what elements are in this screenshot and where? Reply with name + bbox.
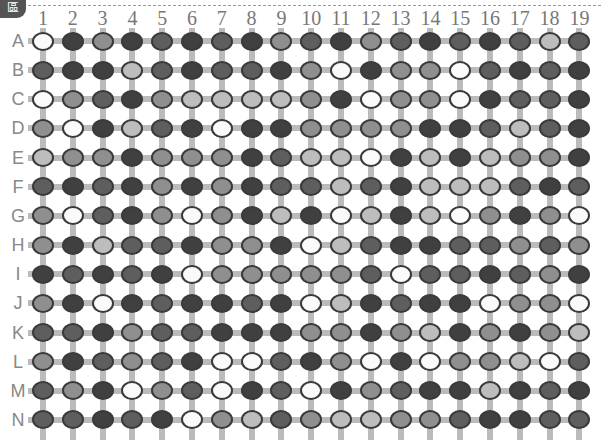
board-cell-G13[interactable]: [390, 206, 412, 225]
board-cell-A17[interactable]: [509, 32, 531, 51]
board-cell-F9[interactable]: [270, 177, 292, 196]
board-cell-G6[interactable]: [181, 206, 203, 225]
board-cell-B2[interactable]: [62, 61, 84, 80]
board-cell-F10[interactable]: [300, 177, 322, 196]
board-cell-G8[interactable]: [241, 206, 263, 225]
board-cell-D19[interactable]: [568, 119, 590, 138]
board-cell-J15[interactable]: [449, 294, 471, 313]
board-cell-H16[interactable]: [479, 236, 501, 255]
board-cell-K16[interactable]: [479, 323, 501, 342]
board-cell-D18[interactable]: [539, 119, 561, 138]
board-cell-D13[interactable]: [390, 119, 412, 138]
board-cell-H17[interactable]: [509, 236, 531, 255]
board-cell-M13[interactable]: [390, 381, 412, 400]
board-cell-A18[interactable]: [539, 32, 561, 51]
board-cell-F7[interactable]: [211, 177, 233, 196]
board-cell-F6[interactable]: [181, 177, 203, 196]
board-cell-A4[interactable]: [121, 32, 143, 51]
board-cell-B11[interactable]: [330, 61, 352, 80]
board-cell-A3[interactable]: [92, 32, 114, 51]
board-cell-I6[interactable]: [181, 265, 203, 284]
board-cell-M3[interactable]: [92, 381, 114, 400]
board-cell-L2[interactable]: [62, 352, 84, 371]
board-cell-F13[interactable]: [390, 177, 412, 196]
board-cell-H12[interactable]: [360, 236, 382, 255]
board-cell-L4[interactable]: [121, 352, 143, 371]
board-cell-K3[interactable]: [92, 323, 114, 342]
board-cell-G14[interactable]: [419, 206, 441, 225]
board-cell-E12[interactable]: [360, 148, 382, 167]
board-cell-H7[interactable]: [211, 236, 233, 255]
board-cell-H13[interactable]: [390, 236, 412, 255]
board-cell-F1[interactable]: [32, 177, 54, 196]
board-cell-E11[interactable]: [330, 148, 352, 167]
board-cell-L6[interactable]: [181, 352, 203, 371]
board-cell-N7[interactable]: [211, 410, 233, 429]
board-cell-B12[interactable]: [360, 61, 382, 80]
board-cell-G15[interactable]: [449, 206, 471, 225]
board-cell-K13[interactable]: [390, 323, 412, 342]
board-cell-N10[interactable]: [300, 410, 322, 429]
board-cell-B5[interactable]: [151, 61, 173, 80]
board-cell-D15[interactable]: [449, 119, 471, 138]
board-cell-I3[interactable]: [92, 265, 114, 284]
board-cell-G17[interactable]: [509, 206, 531, 225]
board-cell-J6[interactable]: [181, 294, 203, 313]
board-cell-D14[interactable]: [419, 119, 441, 138]
board-cell-M6[interactable]: [181, 381, 203, 400]
board-cell-A13[interactable]: [390, 32, 412, 51]
board-cell-E3[interactable]: [92, 148, 114, 167]
board-cell-L7[interactable]: [211, 352, 233, 371]
board-cell-L8[interactable]: [241, 352, 263, 371]
board-cell-C1[interactable]: [32, 90, 54, 109]
board-cell-I8[interactable]: [241, 265, 263, 284]
board-cell-D9[interactable]: [270, 119, 292, 138]
board-cell-L10[interactable]: [300, 352, 322, 371]
board-cell-I13[interactable]: [390, 265, 412, 284]
board-cell-H3[interactable]: [92, 236, 114, 255]
board-cell-E13[interactable]: [390, 148, 412, 167]
board-cell-H8[interactable]: [241, 236, 263, 255]
board-cell-E18[interactable]: [539, 148, 561, 167]
board-cell-A12[interactable]: [360, 32, 382, 51]
board-cell-L14[interactable]: [419, 352, 441, 371]
board-cell-A1[interactable]: [32, 32, 54, 51]
board-cell-F17[interactable]: [509, 177, 531, 196]
board-cell-N16[interactable]: [479, 410, 501, 429]
board-cell-E7[interactable]: [211, 148, 233, 167]
board-cell-M19[interactable]: [568, 381, 590, 400]
board-cell-I5[interactable]: [151, 265, 173, 284]
board-cell-K7[interactable]: [211, 323, 233, 342]
board-cell-M17[interactable]: [509, 381, 531, 400]
board-cell-K2[interactable]: [62, 323, 84, 342]
board-cell-J17[interactable]: [509, 294, 531, 313]
board-cell-M16[interactable]: [479, 381, 501, 400]
board-cell-N2[interactable]: [62, 410, 84, 429]
board-cell-J18[interactable]: [539, 294, 561, 313]
board-cell-E2[interactable]: [62, 148, 84, 167]
board-cell-D2[interactable]: [62, 119, 84, 138]
board-cell-F8[interactable]: [241, 177, 263, 196]
board-cell-F4[interactable]: [121, 177, 143, 196]
board-cell-K15[interactable]: [449, 323, 471, 342]
board-cell-F2[interactable]: [62, 177, 84, 196]
board-cell-N5[interactable]: [151, 410, 173, 429]
board-cell-B13[interactable]: [390, 61, 412, 80]
board-cell-N3[interactable]: [92, 410, 114, 429]
board-cell-H14[interactable]: [419, 236, 441, 255]
board-cell-K6[interactable]: [181, 323, 203, 342]
board-cell-K8[interactable]: [241, 323, 263, 342]
board-cell-M5[interactable]: [151, 381, 173, 400]
board-cell-A19[interactable]: [568, 32, 590, 51]
board-cell-C5[interactable]: [151, 90, 173, 109]
board-cell-C14[interactable]: [419, 90, 441, 109]
board-cell-C4[interactable]: [121, 90, 143, 109]
board-cell-H10[interactable]: [300, 236, 322, 255]
board-cell-H9[interactable]: [270, 236, 292, 255]
board-cell-M7[interactable]: [211, 381, 233, 400]
board-cell-G19[interactable]: [568, 206, 590, 225]
board-cell-J8[interactable]: [241, 294, 263, 313]
board-cell-B17[interactable]: [509, 61, 531, 80]
board-cell-I7[interactable]: [211, 265, 233, 284]
board-cell-E10[interactable]: [300, 148, 322, 167]
